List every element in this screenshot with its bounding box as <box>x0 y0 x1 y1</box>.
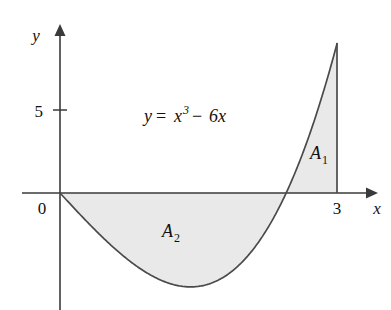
y-axis-arrowhead <box>55 24 66 36</box>
equation-exponent: 3 <box>182 103 189 117</box>
equation-minus: − <box>192 106 202 126</box>
y-tick-label-5: 5 <box>35 102 44 121</box>
x-axis-arrowhead <box>366 188 378 199</box>
shaded-regions <box>60 44 337 287</box>
y-axis-label: y <box>30 26 40 45</box>
origin-label: 0 <box>38 199 47 218</box>
region-a2-letter: A <box>161 221 174 241</box>
region-a2-subscript: 2 <box>174 231 180 245</box>
x-axis-label: x <box>372 199 381 218</box>
equation-term: 6x <box>209 106 226 126</box>
region-a1-shading <box>286 44 337 193</box>
equation-label: y = x 3 − 6x <box>142 103 226 126</box>
equation-lhs: y <box>142 106 152 126</box>
region-a1-subscript: 1 <box>322 153 328 167</box>
area-between-curves-figure: y x 5 0 3 y = x 3 − 6x A 1 A 2 <box>0 0 391 310</box>
equation-equals: = <box>156 106 166 126</box>
x-tick-label-3: 3 <box>333 199 342 218</box>
region-a1-letter: A <box>309 143 322 163</box>
equation-base: x <box>173 106 182 126</box>
